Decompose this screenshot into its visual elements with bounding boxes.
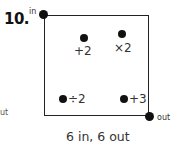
station-dot-times2 (118, 30, 126, 38)
caption: 6 in, 6 out (66, 129, 130, 144)
adjacent-out-label-fragment: ut (0, 108, 8, 117)
station-label-times2: ×2 (114, 41, 132, 55)
exit-label: out (157, 113, 170, 122)
exit-dot (145, 112, 154, 121)
station-dot-plus2 (80, 34, 88, 42)
entry-dot (39, 10, 48, 19)
station-label-divide2: ÷2 (68, 92, 86, 106)
station-label-plus2: +2 (74, 44, 92, 58)
entry-label: in (29, 7, 36, 16)
problem-number: 10. (4, 10, 29, 28)
station-dot-plus3 (120, 95, 128, 103)
station-dot-divide2 (59, 95, 67, 103)
station-label-plus3: +3 (129, 92, 147, 106)
